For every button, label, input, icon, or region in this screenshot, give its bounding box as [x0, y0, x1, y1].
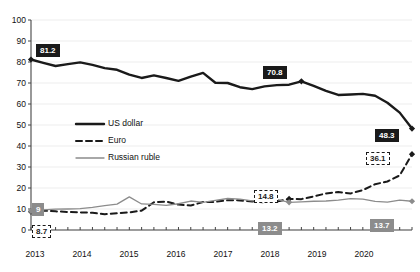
- callout-eur-end: 36.1: [366, 152, 390, 165]
- ytick-label-30: 30: [2, 163, 26, 172]
- ytick-label-0: 0: [2, 226, 26, 235]
- ytick-label-10: 10: [2, 205, 26, 214]
- callout-usd-mid: 70.8: [263, 66, 287, 79]
- xtick-label-2016: 2016: [159, 250, 193, 259]
- ytick-label-100: 100: [2, 16, 26, 25]
- xtick-label-2015: 2015: [112, 250, 146, 259]
- legend-item-euro: Euro: [108, 136, 126, 145]
- ytick-label-60: 60: [2, 100, 26, 109]
- callout-usd-start: 81.2: [36, 44, 60, 57]
- xtick-label-2018: 2018: [253, 250, 287, 259]
- legend-item-us-dollar: US dollar: [108, 119, 143, 128]
- ytick-label-20: 20: [2, 184, 26, 193]
- callout-usd-end: 48.3: [375, 129, 399, 142]
- callout-rub-mid: 13.2: [258, 222, 282, 235]
- callout-rub-start: 9: [32, 203, 44, 216]
- chart-plot-area: [0, 0, 420, 272]
- legend-item-russian-ruble: Russian ruble: [108, 153, 160, 162]
- ytick-label-40: 40: [2, 142, 26, 151]
- callout-rub-end: 13.7: [370, 219, 394, 232]
- callout-eur-start: 8.7: [32, 225, 51, 238]
- xtick-label-2014: 2014: [65, 250, 99, 259]
- xtick-label-2020: 2020: [347, 250, 381, 259]
- callout-eur-mid: 14.8: [254, 190, 278, 203]
- ytick-label-80: 80: [2, 58, 26, 67]
- xtick-label-2019: 2019: [300, 250, 334, 259]
- xtick-label-2017: 2017: [206, 250, 240, 259]
- xtick-label-2013: 2013: [18, 250, 52, 259]
- ytick-label-70: 70: [2, 79, 26, 88]
- legend-swatches: [76, 124, 104, 158]
- currency-share-line-chart: 100 90 80 70 60 50 40 30 20 10 0 2013 20…: [0, 0, 420, 272]
- ytick-label-90: 90: [2, 37, 26, 46]
- ytick-label-50: 50: [2, 121, 26, 130]
